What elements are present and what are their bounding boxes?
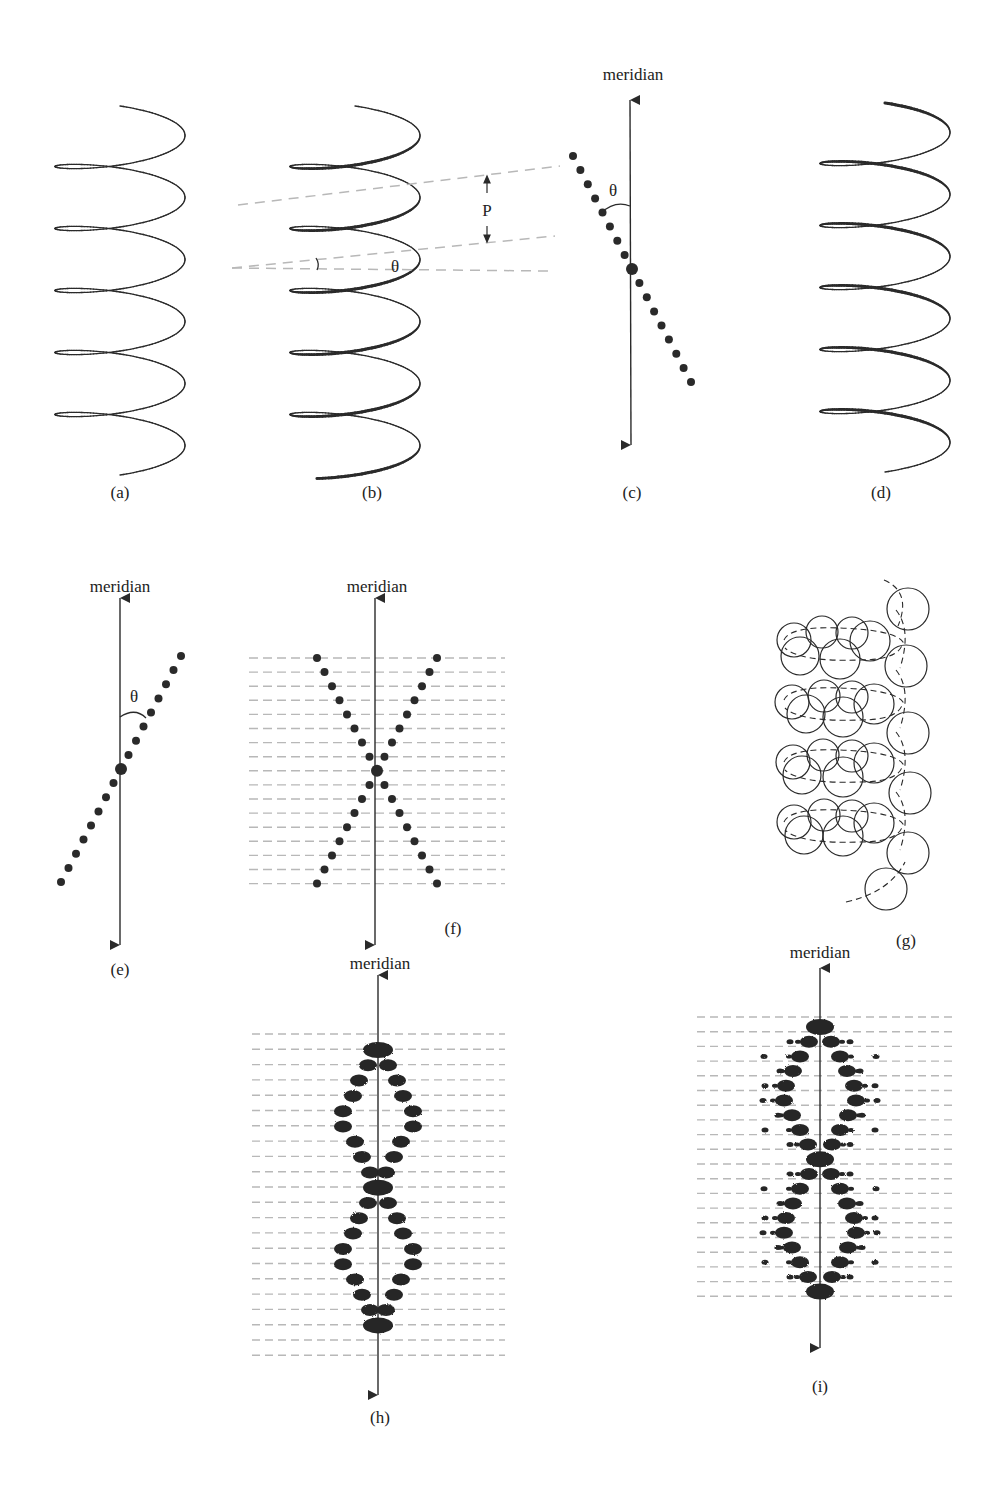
- theta-label: θ: [130, 687, 138, 706]
- panel-label-g: (g): [896, 931, 916, 950]
- lattice-point: [366, 753, 374, 761]
- diffraction-spot: [377, 1166, 395, 1178]
- diffraction-spot: [864, 1231, 870, 1235]
- diffraction-spot: [394, 1228, 412, 1240]
- diffraction-spot: [762, 1216, 769, 1221]
- diffraction-spot: [377, 1304, 395, 1316]
- diffraction-spot: [777, 1212, 795, 1224]
- diffraction-spot: [847, 1227, 865, 1239]
- subunit-sphere: [808, 799, 840, 831]
- panel-label-a: (a): [111, 483, 130, 502]
- diffraction-spot: [806, 1019, 834, 1035]
- lattice-point: [313, 654, 321, 662]
- diffraction-spot: [839, 1040, 845, 1044]
- diffraction-spot: [872, 1260, 879, 1265]
- panel-i: meridian: [697, 943, 952, 1348]
- diffraction-spot: [778, 1246, 784, 1250]
- diffraction-spot: [862, 1216, 868, 1220]
- lattice-point: [65, 864, 73, 872]
- panel-label-c: (c): [623, 483, 642, 502]
- diffraction-spot: [363, 1317, 393, 1333]
- lattice-point: [351, 725, 359, 733]
- panel-e: meridian θ: [57, 577, 185, 945]
- diffraction-spot: [823, 1271, 841, 1283]
- lattice-point: [177, 652, 185, 660]
- lattice-point: [336, 837, 344, 845]
- subunit-sphere: [887, 712, 929, 754]
- lattice-point: [313, 880, 321, 888]
- diffraction-spot: [772, 1216, 778, 1220]
- diffraction-spot: [777, 1080, 795, 1092]
- subunit-sphere: [783, 756, 821, 794]
- lattice-point: [396, 725, 404, 733]
- diffraction-spot: [404, 1121, 422, 1133]
- diffraction-spot: [856, 1113, 862, 1117]
- lattice-point: [358, 739, 366, 747]
- panel-d: [820, 103, 950, 472]
- lattice-point: [388, 739, 396, 747]
- lattice-point: [328, 682, 336, 690]
- diffraction-spot: [334, 1105, 352, 1117]
- diffraction-spot: [838, 1197, 856, 1209]
- diffraction-spot: [823, 1139, 841, 1151]
- lattice-point: [396, 809, 404, 817]
- diffraction-spot: [873, 1186, 880, 1191]
- lattice-point: [147, 709, 155, 717]
- lattice-point: [162, 680, 170, 688]
- subunit-sphere: [776, 745, 810, 779]
- pitch-label: P: [482, 201, 491, 220]
- subunit-sphere: [823, 757, 863, 797]
- diffraction-spot: [346, 1274, 364, 1286]
- lattice-point: [411, 696, 419, 704]
- diffraction-spot: [848, 1187, 854, 1191]
- continuous-helix: [55, 106, 185, 475]
- diffraction-spot: [359, 1059, 377, 1071]
- lattice-point: [665, 336, 673, 344]
- lattice-point: [80, 836, 88, 844]
- diffraction-spot: [806, 1284, 834, 1300]
- diffraction-spot: [353, 1289, 371, 1301]
- lattice-point: [336, 696, 344, 704]
- diffraction-spot: [848, 1128, 854, 1132]
- lattice-point: [358, 795, 366, 803]
- diffraction-spot: [784, 1197, 802, 1209]
- diffraction-spot: [353, 1151, 371, 1163]
- meridian-label: meridian: [603, 65, 664, 84]
- diffraction-spot: [761, 1186, 768, 1191]
- angle-arc: [120, 712, 146, 718]
- lattice-point: [381, 753, 389, 761]
- diffraction-spot: [862, 1084, 868, 1088]
- diffraction-spot: [761, 1054, 768, 1059]
- lattice-point: [680, 364, 688, 372]
- diffraction-spot: [847, 1039, 854, 1044]
- diffraction-spot: [346, 1136, 364, 1148]
- lattice-point: [170, 666, 178, 674]
- panel-label-h: (h): [370, 1408, 390, 1427]
- lattice-point: [606, 223, 614, 231]
- lattice-point: [650, 307, 658, 315]
- diffraction-spot: [872, 1216, 879, 1221]
- diffraction-spot: [344, 1090, 362, 1102]
- diffraction-spot: [840, 1143, 846, 1147]
- lattice-point: [351, 809, 359, 817]
- diffraction-spot: [847, 1095, 865, 1107]
- diffraction-spot: [847, 1142, 854, 1147]
- diffraction-spot: [770, 1099, 776, 1103]
- lattice-point: [576, 166, 584, 174]
- diffraction-spot: [822, 1168, 840, 1180]
- diffraction-spot: [787, 1039, 794, 1044]
- subunit-sphere: [836, 740, 868, 772]
- meridian-label: meridian: [347, 577, 408, 596]
- diffraction-spot: [779, 1069, 785, 1073]
- diffraction-spot: [873, 1054, 880, 1059]
- panel-label-e: (e): [111, 960, 130, 979]
- lattice-point: [321, 668, 329, 676]
- diffraction-spot: [388, 1075, 406, 1087]
- panel-g: [775, 580, 931, 910]
- lattice-point: [433, 880, 441, 888]
- diffraction-spot: [334, 1258, 352, 1270]
- diffraction-spot: [847, 1172, 854, 1177]
- diffraction-spot: [795, 1172, 801, 1176]
- lattice-point: [102, 793, 110, 801]
- lattice-point: [403, 823, 411, 831]
